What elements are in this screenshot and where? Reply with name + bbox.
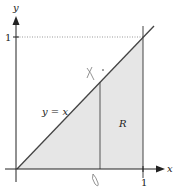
y-tick-label: 1	[5, 32, 11, 43]
y-axis-arrow-icon	[13, 16, 20, 25]
region-diagram: y 1 x 1 y = x R	[0, 0, 176, 195]
x-axis-label: x	[167, 163, 173, 174]
x-axis-arrow-icon	[156, 166, 165, 173]
y-axis-label: y	[12, 2, 19, 13]
line-label: y = x	[41, 106, 68, 117]
handwritten-zero-mark	[92, 174, 98, 186]
handwritten-x-mark	[87, 67, 104, 80]
region-label: R	[118, 118, 127, 129]
x-tick-label: 1	[141, 177, 147, 188]
